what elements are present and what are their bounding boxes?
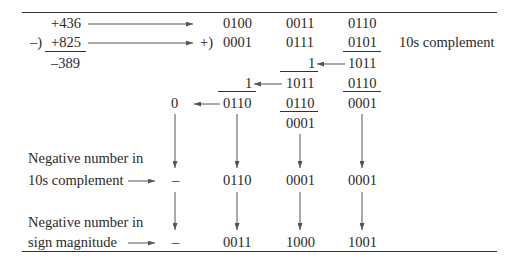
- arrows-layer: [0, 0, 519, 266]
